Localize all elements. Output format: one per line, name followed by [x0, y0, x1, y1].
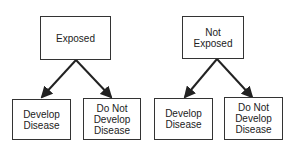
not-exposed-box: Not Exposed: [182, 16, 244, 59]
not-exposed-develop-disease-box: Develop Disease: [154, 98, 213, 140]
exposed-label: Exposed: [56, 33, 95, 44]
arrow-exposed-to-develop: [42, 60, 76, 97]
not-exposed-develop-disease-label: Develop Disease: [165, 108, 202, 130]
not-exposed-not-develop-disease-label: Do Not Develop Disease: [235, 102, 272, 135]
not-exposed-label: Not Exposed: [194, 27, 233, 49]
not-exposed-not-develop-disease-box: Do Not Develop Disease: [224, 97, 283, 140]
arrow-notexposed-to-not-develop: [217, 59, 252, 97]
exposed-not-develop-disease-box: Do Not Develop Disease: [83, 98, 141, 140]
exposed-develop-disease-label: Develop Disease: [23, 109, 60, 131]
exposed-box: Exposed: [40, 16, 111, 60]
exposed-not-develop-disease-label: Do Not Develop Disease: [94, 103, 131, 136]
exposed-develop-disease-box: Develop Disease: [12, 99, 71, 140]
arrow-exposed-to-not-develop: [76, 60, 111, 97]
arrow-notexposed-to-develop: [185, 59, 217, 97]
